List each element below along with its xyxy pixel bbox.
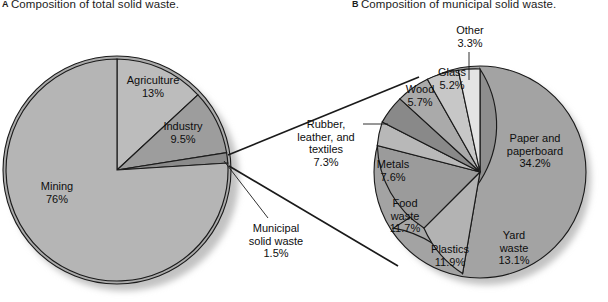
pie-chart-artwork <box>0 0 608 302</box>
expansion-leader-lower <box>229 166 398 266</box>
figure-root: AComposition of total solid waste. BComp… <box>0 0 608 302</box>
